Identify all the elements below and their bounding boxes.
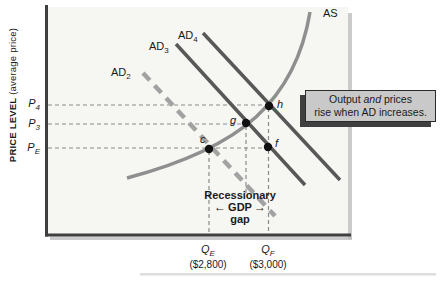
ad2-label-sub: 2 — [126, 72, 130, 81]
callout-box: Output and prices rise when AD increases… — [305, 90, 436, 122]
chart-canvas — [0, 0, 440, 281]
price-tick-p3-sub: 3 — [36, 123, 40, 132]
price-tick-p4-base: P — [28, 97, 35, 109]
quantity-tick-qf: QF ($3,000) — [244, 243, 292, 271]
gap-annotation-line3: gap — [192, 213, 288, 225]
point-label-g: g — [230, 114, 236, 126]
callout-line1-post: prices — [384, 93, 412, 105]
gap-annotation-line1: Recessionary — [192, 189, 288, 201]
price-tick-pe-base: P — [27, 141, 34, 153]
point-label-h: h — [277, 98, 283, 110]
point-label-f: f — [275, 137, 278, 149]
quantity-tick-qf-base: Q — [261, 243, 270, 255]
plot-shadow-right — [348, 13, 352, 239]
y-axis-title-note: (average price) — [7, 28, 18, 98]
point-dot-c — [205, 145, 213, 153]
page-shadow — [140, 273, 436, 276]
plot-shadow-bottom — [50, 237, 352, 241]
point-dot-f — [264, 143, 272, 151]
point-dot-h — [265, 102, 273, 110]
as-curve-label: AS — [323, 7, 338, 19]
callout-line1-pre: Output — [329, 93, 361, 105]
price-tick-p3-base: P — [28, 117, 35, 129]
right-arrow-icon: → — [254, 202, 266, 213]
quantity-tick-qe-sub: E — [210, 249, 215, 258]
ad2-label-base: AD — [111, 66, 126, 78]
price-tick-p4: P4 — [10, 97, 40, 112]
price-tick-p4-sub: 4 — [36, 103, 40, 112]
ad3-label-base: AD — [149, 40, 164, 52]
ad2-curve-label: AD2 — [111, 66, 131, 81]
callout-line1-em: and — [363, 93, 381, 105]
quantity-tick-qe-value: ($2,800) — [184, 259, 232, 271]
callout-line1: Output and prices — [306, 93, 435, 106]
ad3-curve-label: AD3 — [149, 40, 169, 55]
gap-annotation: Recessionary ← GDP → gap — [192, 189, 288, 225]
gap-annotation-line2: GDP — [228, 201, 252, 213]
ad4-label-base: AD — [178, 29, 193, 41]
ad4-label-sub: 4 — [193, 35, 197, 44]
quantity-tick-qf-value: ($3,000) — [244, 259, 292, 271]
ad3-label-sub: 3 — [164, 46, 168, 55]
ad4-curve-label: AD4 — [178, 29, 198, 44]
gap-annotation-arrows: ← GDP → — [192, 201, 288, 213]
point-dot-g — [242, 119, 250, 127]
price-tick-pe-sub: E — [35, 147, 40, 156]
quantity-tick-qe-base: Q — [201, 243, 210, 255]
callout-line2: rise when AD increases. — [306, 106, 435, 119]
quantity-tick-qe: QE ($2,800) — [184, 243, 232, 271]
quantity-tick-qf-sub: F — [270, 249, 275, 258]
price-tick-p3: P3 — [10, 117, 40, 132]
left-arrow-icon: ← — [214, 202, 226, 213]
price-tick-pe: PE — [10, 141, 40, 156]
point-label-c: c — [200, 133, 206, 145]
adas-figure: PRICE LEVEL (average price) P4 P3 PE QE … — [0, 0, 440, 281]
